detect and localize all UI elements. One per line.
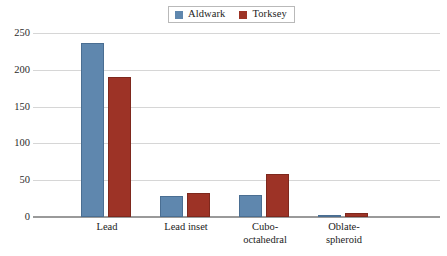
y-tick-label: 0	[2, 212, 30, 223]
y-tick-label: 50	[2, 175, 30, 186]
bar[interactable]	[160, 196, 183, 217]
bar[interactable]	[318, 215, 341, 217]
y-tick-label: 200	[2, 65, 30, 76]
legend-swatch-aldwark	[175, 11, 183, 19]
chart-legend: Aldwark Torksey	[168, 6, 295, 23]
bar[interactable]	[81, 43, 104, 217]
y-tick-label: 100	[2, 138, 30, 149]
bar-groups	[33, 33, 440, 217]
x-axis-labels: LeadLead insetCubo- octahedralOblate- sp…	[33, 220, 440, 254]
bar[interactable]	[345, 213, 368, 217]
legend-swatch-torksey	[239, 11, 247, 19]
y-tick-label: 250	[2, 28, 30, 39]
legend-item-aldwark[interactable]: Aldwark	[175, 9, 225, 20]
x-axis-label: Oblate- spheroid	[292, 220, 396, 246]
y-axis: 250 200 150 100 50 0	[0, 33, 30, 217]
legend-item-torksey[interactable]: Torksey	[239, 9, 286, 20]
legend-label-aldwark: Aldwark	[188, 9, 225, 20]
bar[interactable]	[108, 77, 131, 217]
bar[interactable]	[239, 195, 262, 217]
plot-area	[33, 33, 440, 217]
bar[interactable]	[187, 193, 210, 217]
legend-label-torksey: Torksey	[252, 9, 286, 20]
y-tick-label: 150	[2, 101, 30, 112]
bar-chart: Aldwark Torksey 250 200 150 100 50 0 Lea…	[0, 0, 447, 256]
bar[interactable]	[266, 174, 289, 217]
